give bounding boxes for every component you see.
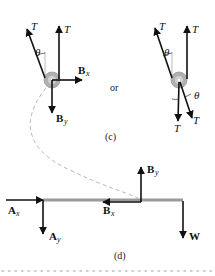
by-subscript: y xyxy=(154,168,159,177)
by-label: B xyxy=(147,163,155,175)
tension-right-label: T xyxy=(64,23,71,35)
or-separator: or xyxy=(110,82,119,93)
tension-down-right-arrow xyxy=(180,82,192,118)
tension-down-left-arrow xyxy=(178,82,179,121)
right-pulley-fbd: T T θ T T θ xyxy=(155,20,200,134)
tension-down-right-label: T xyxy=(193,114,200,126)
left-pulley-fbd: T T θ B x B y xyxy=(27,20,90,126)
caption-c: (c) xyxy=(105,131,116,143)
lower-angle-arc-right xyxy=(185,94,191,97)
ax-subscript: x xyxy=(15,209,20,218)
bx-label: B xyxy=(103,204,111,216)
bx-label: B xyxy=(78,64,86,76)
tension-up-right-label: T xyxy=(192,23,199,35)
angle-label: θ xyxy=(35,46,41,58)
angle-top-label: θ xyxy=(164,46,170,58)
ax-label: A xyxy=(8,204,16,216)
angle-bottom-label: θ xyxy=(194,89,200,101)
tension-down-left-label: T xyxy=(174,122,181,134)
free-body-diagram: T T θ B x B y or T T θ T T θ (c) xyxy=(0,0,215,276)
caption-d: (d) xyxy=(114,250,126,262)
dashed-connector-curve xyxy=(30,88,140,199)
bx-subscript: x xyxy=(110,209,115,218)
lower-angle-arc xyxy=(172,99,178,100)
bx-subscript: x xyxy=(85,69,90,78)
ay-label: A xyxy=(49,230,57,242)
by-label: B xyxy=(56,112,64,124)
beam-fbd: A x A y B y B x W xyxy=(6,163,200,244)
tension-up-left-label: T xyxy=(159,20,166,32)
ay-subscript: y xyxy=(56,235,61,244)
tension-left-label: T xyxy=(31,20,38,32)
by-subscript: y xyxy=(63,117,68,126)
w-label: W xyxy=(189,230,200,242)
